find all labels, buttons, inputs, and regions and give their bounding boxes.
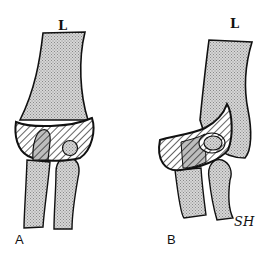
- radius-b: [209, 160, 233, 220]
- ulna-a: [24, 160, 50, 228]
- radius-a: [54, 157, 79, 229]
- capitellum-a: [63, 141, 78, 156]
- panel-label-a: A: [15, 232, 24, 247]
- ulna-b: [175, 168, 206, 218]
- condyle-region-a: [15, 118, 93, 161]
- panel-b: L B: [159, 16, 252, 247]
- artist-signature: SH: [234, 214, 255, 229]
- elbow-illustration: L A L B SH: [0, 0, 270, 254]
- panel-a: L A: [15, 18, 94, 247]
- side-label-a: L: [58, 18, 67, 33]
- humerus-a: [20, 32, 88, 120]
- panel-label-b: B: [167, 232, 176, 247]
- capitellum-b: [204, 136, 222, 150]
- side-label-b: L: [230, 16, 239, 31]
